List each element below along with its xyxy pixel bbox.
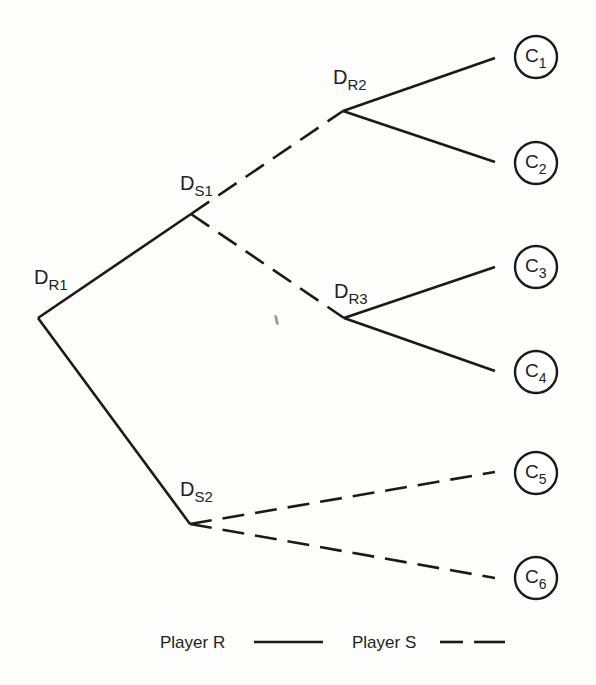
outcome-c2: C2 bbox=[515, 142, 557, 184]
outcome-c6: C6 bbox=[515, 557, 557, 599]
outcome-c5: C5 bbox=[515, 452, 557, 494]
outcome-c1: C1 bbox=[515, 36, 557, 78]
outcome-c4: C4 bbox=[515, 351, 557, 393]
background bbox=[0, 0, 596, 685]
game-tree-diagram: C1C2C3C4C5C6 DR1DS1DS2DR2DR3 Player R Pl… bbox=[0, 0, 596, 685]
legend-player-r-label: Player R bbox=[160, 633, 225, 652]
outcome-c3: C3 bbox=[515, 246, 557, 288]
legend-player-s-label: Player S bbox=[352, 633, 416, 652]
